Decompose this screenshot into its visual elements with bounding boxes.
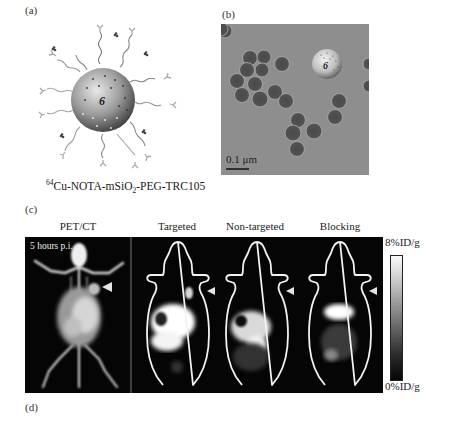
time-point-label: 5 hours p.i. [30, 241, 73, 251]
nanoparticle-caption: 64Cu-NOTA-mSiO2-PEG-TRC105 [46, 178, 205, 195]
colorbar [390, 255, 403, 381]
column-label-targeted: Targeted [137, 220, 217, 232]
targeted-mouse [147, 242, 215, 385]
pet-ct-mouse [35, 243, 123, 387]
panel-label-d: (d) [25, 401, 38, 413]
pet-imaging-panel: 5 hours p.i. [25, 237, 383, 393]
column-label-pet-ct: PET/CT [38, 220, 118, 232]
scale-bar-label: 0.1 μm [226, 153, 257, 165]
tem-image: 6 0.1 μm [221, 24, 369, 175]
colorbar-max-label: 8%ID/g [385, 236, 420, 248]
blocking-mouse [309, 242, 377, 385]
tumor-arrowhead-icon [369, 287, 377, 295]
nanoparticle-illustration: 6 [25, 22, 185, 172]
tumor-arrowhead-icon [207, 287, 215, 295]
panel-label-a: (a) [25, 4, 37, 16]
caption-part2: -PEG-TRC105 [136, 180, 205, 192]
nanoparticle-schematic: 6 [25, 22, 185, 172]
tumor-arrowhead-icon [102, 282, 112, 292]
column-label-blocking: Blocking [300, 220, 380, 232]
panel-label-b: (b) [222, 8, 235, 20]
column-label-non-targeted: Non-targeted [215, 220, 295, 232]
copper-64-symbol: 6 [99, 94, 105, 108]
svg-text:6: 6 [323, 60, 328, 71]
panel-label-c: (c) [25, 203, 37, 215]
caption-part1: Cu-NOTA-mSiO [54, 180, 133, 192]
pet-images: 5 hours p.i. [25, 237, 383, 393]
tem-sphere-icon: 6 [312, 49, 342, 79]
caption-isotope-superscript: 64 [46, 178, 54, 187]
non-targeted-mouse [226, 242, 294, 385]
tumor-arrowhead-icon [286, 287, 294, 295]
colorbar-min-label: 0%ID/g [385, 380, 420, 392]
